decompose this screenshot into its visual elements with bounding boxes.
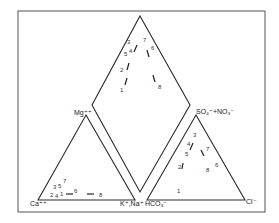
point-label: 7 [206, 146, 210, 152]
central-diamond [92, 16, 190, 192]
point-label: 7 [143, 37, 147, 43]
point-label: 8 [99, 192, 103, 198]
anion-tick [201, 150, 204, 156]
point-label: 2 [178, 164, 182, 170]
point-label: 2 [50, 192, 54, 198]
label-k-na: K⁺,Na⁺ [120, 200, 144, 207]
point-label: 8 [206, 167, 210, 173]
anion-tick [182, 163, 183, 169]
point-label: 3 [193, 132, 197, 138]
diamond-tick [147, 50, 149, 57]
point-label: 1 [120, 87, 124, 93]
label-hco3: HCO₃⁻ [145, 200, 167, 207]
piper-diagram: Ca⁺⁺ K⁺,Na⁺ Mg⁺⁺ HCO₃⁻ Cl⁻ SO₄⁼+NO₃⁻ 1 2… [0, 0, 279, 223]
point-label: 8 [158, 84, 162, 90]
anion-tick [190, 143, 193, 150]
point-label: 5 [124, 51, 128, 57]
diamond-tick [125, 78, 127, 85]
diamond-tick [134, 45, 137, 52]
point-label: 6 [151, 45, 155, 51]
label-so4-no3: SO₄⁼+NO₃⁻ [196, 108, 234, 115]
point-label: 1 [177, 188, 181, 194]
diamond-tick [127, 63, 129, 70]
label-mg: Mg⁺⁺ [74, 109, 92, 117]
point-label: 5 [185, 151, 189, 157]
anion-triangle [147, 115, 245, 200]
diamond-tick [153, 75, 155, 82]
point-label: 4 [129, 48, 133, 54]
point-label: 3 [53, 184, 57, 190]
point-label: 4 [187, 141, 191, 147]
label-cl: Cl⁻ [246, 198, 257, 205]
point-label: 7 [63, 178, 67, 184]
point-label: 5 [58, 183, 62, 189]
point-label: 6 [215, 162, 219, 168]
point-label: 3 [127, 39, 131, 45]
point-label: 6 [74, 188, 78, 194]
point-label: 2 [120, 67, 124, 73]
point-label: 4 [55, 193, 59, 199]
label-ca: Ca⁺⁺ [30, 200, 47, 207]
point-label: 1 [60, 191, 64, 197]
